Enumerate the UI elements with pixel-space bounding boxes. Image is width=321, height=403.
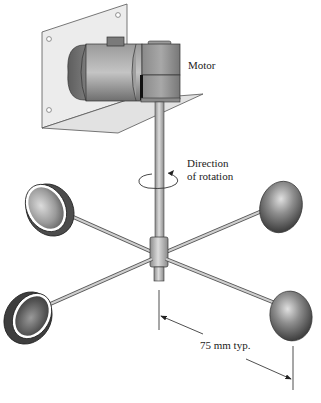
cup-upper-left — [17, 175, 84, 245]
direction-label-line1: Direction — [187, 157, 229, 169]
cup-lower-left — [0, 283, 61, 353]
bolt-hole-icon — [116, 13, 121, 18]
anemometer-diagram: Motor Direction of rotation 75 mm typ. — [0, 0, 321, 403]
bolt-hole-icon — [47, 37, 52, 42]
gearbox — [140, 41, 180, 102]
motor-label: Motor — [188, 59, 216, 71]
direction-label-line2: of rotation — [187, 170, 233, 182]
bolt-hole-icon — [47, 108, 52, 113]
cup-lower-right — [266, 288, 316, 345]
hub — [150, 237, 168, 281]
motor — [68, 37, 142, 101]
cup-upper-right — [254, 176, 308, 237]
diagram-canvas — [0, 0, 321, 403]
dimension-label: 75 mm typ. — [200, 339, 250, 351]
